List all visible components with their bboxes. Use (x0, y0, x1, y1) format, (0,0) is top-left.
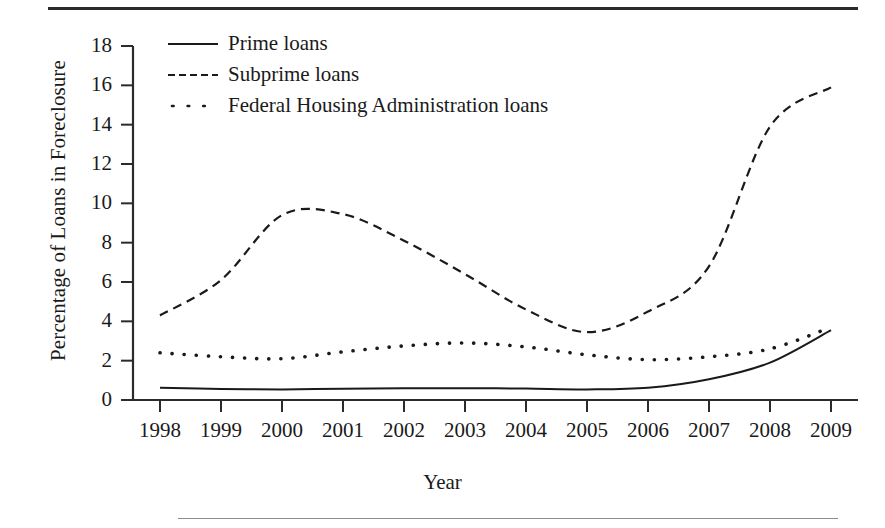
legend-key-dotted-icon (166, 99, 220, 113)
y-tick-label: 8 (78, 232, 112, 253)
legend-item-prime: Prime loans (166, 28, 548, 59)
x-tick-label: 2003 (430, 420, 500, 441)
legend-item-fha: Federal Housing Administration loans (166, 90, 548, 121)
x-tick-label: 2006 (613, 420, 683, 441)
x-tick-label: 2004 (491, 420, 561, 441)
y-tick-marks (121, 46, 133, 400)
y-tick-label: 4 (78, 310, 112, 331)
legend-key-dashed-icon (166, 68, 220, 82)
series-line-dotted (160, 327, 831, 359)
x-tick-label: 2001 (308, 420, 378, 441)
x-tick-label: 2005 (552, 420, 622, 441)
x-tick-label: 1999 (186, 420, 256, 441)
x-tick-label: 2008 (735, 420, 805, 441)
x-tick-label: 2009 (796, 420, 866, 441)
legend-label-subprime: Subprime loans (228, 62, 359, 87)
y-tick-label: 18 (78, 35, 112, 56)
series-line-dashed (160, 87, 831, 332)
chart-legend: Prime loans Subprime loans Federal Housi… (166, 28, 548, 121)
legend-label-fha: Federal Housing Administration loans (228, 93, 548, 118)
series-line-solid (160, 330, 831, 389)
y-tick-label: 12 (78, 153, 112, 174)
legend-item-subprime: Subprime loans (166, 59, 548, 90)
x-tick-label: 2007 (674, 420, 744, 441)
y-tick-label: 16 (78, 74, 112, 95)
y-tick-label: 2 (78, 350, 112, 371)
y-tick-label: 0 (78, 389, 112, 410)
x-tick-marks (160, 400, 831, 412)
series-lines (160, 87, 831, 389)
y-tick-label: 6 (78, 271, 112, 292)
foreclosure-line-chart-figure: Percentage of Loans in Foreclosure Year … (0, 0, 885, 528)
x-tick-label: 1998 (125, 420, 195, 441)
x-tick-label: 2002 (369, 420, 439, 441)
x-tick-label: 2000 (247, 420, 317, 441)
legend-key-solid-icon (166, 37, 220, 51)
y-tick-label: 14 (78, 114, 112, 135)
legend-label-prime: Prime loans (228, 31, 328, 56)
y-tick-label: 10 (78, 192, 112, 213)
